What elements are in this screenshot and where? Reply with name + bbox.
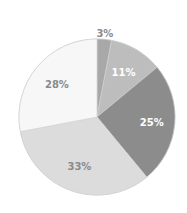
slice-label: 11% <box>112 67 136 78</box>
slice-label: 3% <box>96 28 113 39</box>
slice-label: 25% <box>140 117 164 128</box>
pie-chart: 3%11%25%33%28% <box>0 0 187 213</box>
pie-chart-svg: 3%11%25%33%28% <box>0 0 187 213</box>
slice-label: 28% <box>45 79 69 90</box>
slice-label: 33% <box>67 161 91 172</box>
